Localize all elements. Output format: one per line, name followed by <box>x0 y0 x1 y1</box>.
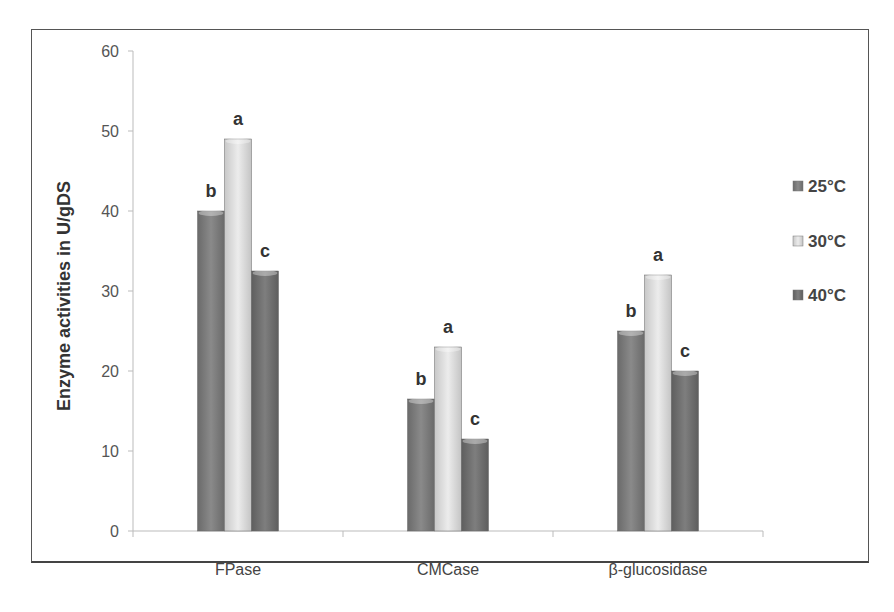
significance-letter: b <box>416 369 427 389</box>
y-tick-label: 10 <box>101 443 119 460</box>
significance-letter: b <box>626 301 637 321</box>
legend-label: 25°C <box>808 177 846 196</box>
legend-label: 30°C <box>808 232 846 251</box>
y-tick-label: 30 <box>101 283 119 300</box>
x-category-label: FPase <box>215 561 261 578</box>
bar-CMCase-40°C <box>462 439 489 531</box>
x-category-label: β-glucosidase <box>608 561 707 578</box>
y-tick-label: 50 <box>101 123 119 140</box>
legend: 25°C30°C40°C <box>793 177 846 305</box>
bar-β-glucosidase-25°C <box>618 331 645 531</box>
significance-letter: c <box>470 409 480 429</box>
significance-letter: a <box>443 317 454 337</box>
legend-swatch <box>793 236 803 246</box>
significance-letter: c <box>680 341 690 361</box>
legend-swatch <box>793 290 803 300</box>
bar-β-glucosidase-30°C <box>645 275 672 531</box>
legend-label: 40°C <box>808 286 846 305</box>
y-tick-label: 40 <box>101 203 119 220</box>
y-axis-title: Enzyme activities in U/gDS <box>54 181 74 411</box>
bar-FPase-30°C <box>225 139 252 531</box>
significance-letter: b <box>206 181 217 201</box>
bars: bacFPasebacCMCasebacβ-glucosidase <box>198 109 708 578</box>
bar-β-glucosidase-40°C <box>672 371 699 531</box>
bar-chart: 0102030405060Enzyme activities in U/gDS … <box>0 0 894 612</box>
bar-FPase-40°C <box>252 271 279 531</box>
bar-CMCase-30°C <box>435 347 462 531</box>
y-tick-label: 60 <box>101 43 119 60</box>
significance-letter: c <box>260 241 270 261</box>
significance-letter: a <box>653 245 664 265</box>
significance-letter: a <box>233 109 244 129</box>
y-tick-label: 20 <box>101 363 119 380</box>
bar-CMCase-25°C <box>408 399 435 531</box>
y-tick-label: 0 <box>110 523 119 540</box>
legend-swatch <box>793 181 803 191</box>
x-category-label: CMCase <box>417 561 479 578</box>
bar-FPase-25°C <box>198 211 225 531</box>
